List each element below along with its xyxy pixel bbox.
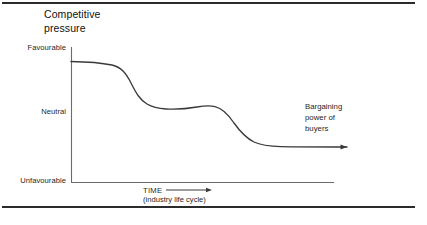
series-arrowhead-icon — [341, 145, 348, 150]
y-tick-label-neutral: Neutral — [8, 107, 66, 117]
time-arrowhead-icon — [206, 188, 212, 192]
series-annotation-line-2: power of — [305, 112, 342, 123]
series-annotation-line-3: buyers — [305, 123, 342, 134]
chart-title-line-2: pressure — [44, 22, 101, 36]
chart-title: Competitive pressure — [44, 8, 101, 36]
x-axis-sublabel: (industry life cycle) — [143, 195, 206, 205]
chart-plot-area: Competitive pressure Favourable Neutral … — [0, 0, 427, 225]
chart-title-line-1: Competitive — [44, 8, 101, 22]
series-annotation-line-1: Bargaining — [305, 101, 342, 112]
figure-container: Competitive pressure Favourable Neutral … — [0, 0, 427, 225]
y-tick-label-favourable: Favourable — [8, 43, 66, 53]
series-annotation: Bargaining power of buyers — [305, 101, 342, 134]
y-tick-label-unfavourable: Unfavourable — [8, 176, 66, 186]
